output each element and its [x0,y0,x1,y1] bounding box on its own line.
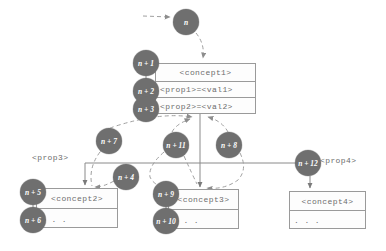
concept-box-concept2[interactable]: <concept2>. . . [36,188,118,228]
graph-node-n1[interactable]: n + 1 [133,50,159,76]
graph-node-label: n [184,18,188,27]
concept-header: <concept2> [37,189,117,209]
edge-dashed-n4-to-concept2 [95,181,114,187]
graph-node-label: n + 1 [138,59,154,68]
concept-row: . . . [290,211,365,230]
graph-node-n10[interactable]: n + 10 [153,208,179,234]
graph-node-label: n + 9 [158,190,174,199]
graph-node-label: n + 11 [166,141,185,150]
concept-row: <prop1>=<val1> [156,82,255,98]
concept-row: . . . [169,210,238,230]
graph-node-label: n + 10 [156,217,176,226]
graph-node-n6[interactable]: n + 6 [20,207,46,233]
diagram-canvas: <concept1><prop1>=<val1><prop2>=<val2> <… [0,0,386,251]
prop-label-prop4: <prop4> [320,156,356,165]
graph-node-n9[interactable]: n + 9 [153,181,179,207]
concept-box-concept1[interactable]: <concept1><prop1>=<val1><prop2>=<val2> [155,63,256,114]
concept-header: <concept3> [169,190,238,210]
edge-n-to-concept1 [196,33,203,58]
graph-node-n7[interactable]: n + 7 [96,128,122,154]
concept-header: <concept1> [156,64,255,82]
graph-node-label: n + 5 [25,188,41,197]
graph-node-n5[interactable]: n + 5 [20,179,46,205]
graph-node-label: n + 4 [118,173,134,182]
edge-incoming-to-n [143,16,170,17]
concept-row: . . . [37,209,117,229]
graph-node-label: n + 6 [25,216,41,225]
graph-node-label: n + 8 [221,141,237,150]
graph-node-n11[interactable]: n + 11 [163,132,189,158]
graph-node-label: n + 7 [101,137,117,146]
graph-node-label: n + 12 [298,159,318,168]
prop-label-prop3: <prop3> [32,153,68,162]
concept-row: <prop2>=<val2> [156,98,255,114]
edge-dashed-n7-down-to-concept2 [91,152,100,186]
edge-dashed-n11-to-concept3 [184,156,197,184]
graph-node-n[interactable]: n [173,9,199,35]
edge-dashed-n11-up-to-concept1 [172,119,190,132]
graph-node-n12[interactable]: n + 12 [295,150,321,176]
graph-node-n8[interactable]: n + 8 [216,132,242,158]
concept-header: <concept4> [290,192,365,211]
graph-node-n4[interactable]: n + 4 [113,164,139,190]
graph-node-label: n + 3 [138,105,154,114]
graph-node-label: n + 2 [138,87,154,96]
graph-node-n3[interactable]: n + 3 [133,96,159,122]
concept-box-concept4[interactable]: <concept4>. . . [289,191,366,229]
